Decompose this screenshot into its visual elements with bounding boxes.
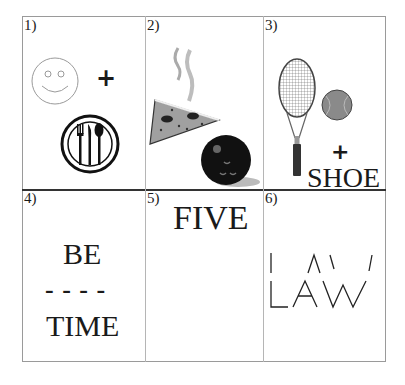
puzzle-cell-4: 4) BE - - - - TIME <box>22 191 145 362</box>
plus-sign: + <box>331 139 349 164</box>
cell-number: 3) <box>265 17 278 34</box>
steam-icon <box>170 46 200 106</box>
bottom-word: TIME <box>46 309 119 343</box>
cell-number: 6) <box>265 190 278 207</box>
cell-number: 2) <box>147 17 160 34</box>
plate-cutlery-icon <box>60 114 120 174</box>
cell-number: 1) <box>24 17 37 34</box>
cell-number: 4) <box>24 190 37 207</box>
top-word: BE <box>63 237 101 271</box>
law-partial-strokes <box>268 251 378 277</box>
puzzle-cell-5: 5) FIVE <box>145 191 263 362</box>
puzzle-cell-6: 6) <box>263 191 386 362</box>
tennis-ball-icon <box>320 88 354 122</box>
shoe-word: SHOE <box>307 162 380 194</box>
bowling-ball-icon <box>200 134 262 189</box>
smiley-face-icon <box>30 56 80 106</box>
puzzle-cell-3: 3) + SHOE <box>263 16 386 189</box>
tennis-racket-icon <box>277 58 317 178</box>
plus-sign: + <box>96 64 116 92</box>
puzzle-cell-1: 1) + <box>22 16 145 189</box>
law-word <box>268 279 378 309</box>
dashes: - - - - <box>45 275 106 305</box>
cell-number: 5) <box>147 190 160 207</box>
five-word: FIVE <box>173 199 249 237</box>
puzzle-cell-2: 2) <box>145 16 263 189</box>
